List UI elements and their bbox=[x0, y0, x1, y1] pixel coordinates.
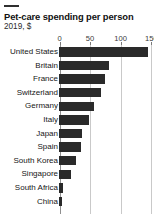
bar bbox=[59, 74, 105, 83]
category-label: Switzerland bbox=[17, 87, 58, 98]
category-label: Singapore bbox=[22, 168, 58, 179]
bar-row: Singapore bbox=[0, 167, 154, 181]
bar-row: Spain bbox=[0, 140, 154, 154]
bar bbox=[59, 170, 71, 179]
bar bbox=[59, 102, 94, 111]
bar bbox=[59, 47, 148, 56]
bar bbox=[59, 156, 76, 165]
bar-row: Switzerland bbox=[0, 86, 154, 100]
category-label: United States bbox=[10, 46, 58, 57]
bar bbox=[59, 129, 82, 138]
bar-row: China bbox=[0, 195, 154, 209]
x-axis-tick-labels: 050100150 bbox=[0, 34, 154, 45]
bar bbox=[59, 183, 63, 192]
category-label: France bbox=[33, 73, 58, 84]
bar-row: South Africa bbox=[0, 181, 154, 195]
bar-row: France bbox=[0, 72, 154, 86]
top-rule-decoration bbox=[4, 5, 19, 7]
chart-title: Pet-care spending per person bbox=[4, 11, 152, 22]
bar-row: Japan bbox=[0, 127, 154, 141]
bar bbox=[59, 142, 81, 151]
category-label: South Africa bbox=[15, 182, 58, 193]
category-label: Italy bbox=[43, 114, 58, 125]
chart-plot-area: 050100150 United StatesBritainFranceSwit… bbox=[0, 34, 154, 214]
bar-row: Britain bbox=[0, 59, 154, 73]
bar-rows: United StatesBritainFranceSwitzerlandGer… bbox=[0, 45, 154, 214]
category-label: China bbox=[37, 196, 58, 207]
category-label: Japan bbox=[36, 128, 58, 139]
category-label: South Korea bbox=[14, 155, 58, 166]
bar-row: United States bbox=[0, 45, 154, 59]
bar bbox=[59, 115, 89, 124]
bar bbox=[59, 88, 101, 97]
bar-row: Germany bbox=[0, 99, 154, 113]
bar-row: Italy bbox=[0, 113, 154, 127]
bar bbox=[59, 197, 62, 206]
pet-care-spending-chart-card: Pet-care spending per person 2019, $ 050… bbox=[0, 0, 154, 214]
chart-subtitle: 2019, $ bbox=[4, 22, 31, 32]
category-label: Britain bbox=[35, 60, 58, 71]
category-label: Germany bbox=[25, 100, 58, 111]
category-label: Spain bbox=[38, 141, 58, 152]
bar bbox=[59, 61, 109, 70]
x-axis-tick-label: 150 bbox=[145, 34, 154, 43]
bar-row: South Korea bbox=[0, 154, 154, 168]
